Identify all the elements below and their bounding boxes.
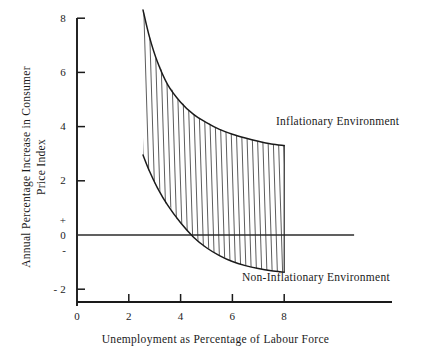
- hatch-line: [196, 10, 205, 300]
- hatch-line: [154, 10, 163, 300]
- hatch-line: [227, 10, 236, 300]
- hatch-line: [149, 10, 158, 300]
- hatch-line: [233, 10, 242, 300]
- x-axis-tick-label: 2: [119, 311, 139, 322]
- y-axis-title-line-1: Annual Percentage Increase in Consumer: [19, 22, 34, 312]
- chart-container: 86420- 2 + - 02468 Annual Percentage Inc…: [0, 0, 431, 358]
- hatch-line: [274, 10, 283, 300]
- y-axis-title: Annual Percentage Increase in Consumer P…: [19, 22, 49, 312]
- hatch-line: [201, 10, 210, 300]
- hatch-line: [248, 10, 257, 300]
- hatch-line: [207, 10, 216, 300]
- x-axis-tick-label: 0: [67, 311, 87, 322]
- x-axis-title: Unemployment as Percentage of Labour For…: [0, 333, 431, 345]
- hatch-line: [264, 10, 273, 300]
- hatch-line: [222, 10, 231, 300]
- hatch-line: [238, 10, 247, 300]
- hatch-line: [165, 10, 174, 300]
- x-axis-tick-label: 6: [222, 311, 242, 322]
- x-axis-ticks: [129, 294, 284, 302]
- hatch-line: [186, 10, 195, 300]
- hatch-line: [144, 10, 153, 300]
- hatch-line: [180, 10, 189, 300]
- hatch-line: [212, 10, 221, 300]
- hatch-line: [170, 10, 179, 300]
- x-axis-tick-label: 4: [171, 311, 191, 322]
- annotation-non-inflationary: Non-Inflationary Environment: [242, 271, 390, 283]
- hatch-line: [269, 10, 278, 300]
- y-axis-title-line-2: Price Index: [34, 22, 49, 312]
- curve-inflationary: [143, 10, 284, 146]
- hatch-line: [191, 10, 200, 300]
- hatch-line: [259, 10, 268, 300]
- hatch-line: [159, 10, 168, 300]
- hatch-line: [254, 10, 263, 300]
- y-axis-ticks: [77, 18, 85, 289]
- hatch-line: [243, 10, 252, 300]
- hatch-line: [175, 10, 184, 300]
- annotation-inflationary: Inflationary Environment: [276, 115, 399, 127]
- hatched-band: [139, 10, 289, 300]
- x-axis-tick-label: 8: [274, 311, 294, 322]
